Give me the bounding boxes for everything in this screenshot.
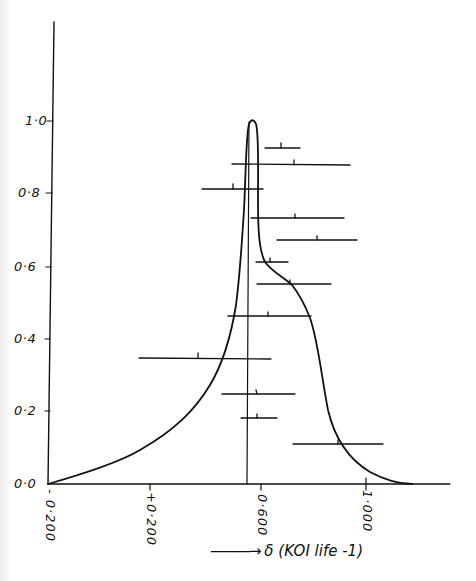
x-axis-title: ———→ δ (KOI life -1): [210, 542, 363, 560]
chart-canvas: [0, 0, 476, 581]
y-tick-label-0.4: 0·4: [14, 331, 36, 346]
arrow-right-icon: ———→: [210, 542, 260, 560]
x-tick-label-1.000: 1·000: [360, 490, 375, 532]
y-tick-label-0.8: 0·8: [18, 185, 40, 200]
distribution-curve: [48, 120, 412, 484]
y-tick-label-1.0: 1·0: [25, 113, 47, 128]
y-tick-label-0.2: 0·2: [14, 403, 36, 418]
reference-line: [247, 122, 249, 484]
y-tick-label-0.6: 0·6: [14, 259, 36, 274]
interval-estimates: [139, 143, 383, 444]
x-tick-label-0.200: +0·200: [144, 492, 159, 546]
x-tick-label-neg0.200: - 0·200: [43, 489, 58, 542]
x-tick-label-0.600: 0·600: [255, 494, 270, 536]
x-axis-title-text: δ (KOI life -1): [264, 542, 363, 560]
y-tick-label-0.0: 0·0: [14, 476, 36, 491]
y-axis: [48, 22, 54, 484]
